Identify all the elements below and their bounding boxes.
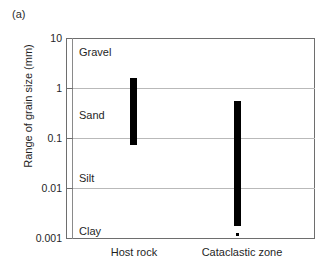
panel-label: (a) <box>12 8 25 20</box>
figure-panel: (a) Range of grain size (mm) 10 1 0.1 0.… <box>0 0 332 275</box>
zone-label-silt: Silt <box>79 172 94 184</box>
zone-label-clay: Clay <box>79 225 101 237</box>
tickmark-0.1 <box>66 138 73 139</box>
y-tick-label-0.1: 0.1 <box>2 133 62 143</box>
gridline-1 <box>66 88 315 89</box>
x-category-label-cataclastic-zone: Cataclastic zone <box>188 246 296 258</box>
zone-label-gravel: Gravel <box>79 46 111 58</box>
y-tick-label-0.001: 0.001 <box>2 233 62 243</box>
zone-label-sand: Sand <box>79 109 105 121</box>
y-tick-label-10: 10 <box>2 33 62 43</box>
y-tick-label-1: 1 <box>2 83 62 93</box>
y-tick-label-0.01: 0.01 <box>2 183 62 193</box>
gridline-0.1 <box>66 138 315 139</box>
gridline-0.01 <box>66 188 315 189</box>
tickmark-0.01 <box>66 188 73 189</box>
tickmark-1 <box>66 88 73 89</box>
y-axis-title: Range of grain size (mm) <box>22 21 34 191</box>
outlier-dot-cataclastic-zone <box>236 233 239 236</box>
range-bar-host-rock <box>130 78 137 145</box>
x-category-label-host-rock: Host rock <box>88 246 180 258</box>
range-bar-cataclastic-zone <box>234 101 241 227</box>
